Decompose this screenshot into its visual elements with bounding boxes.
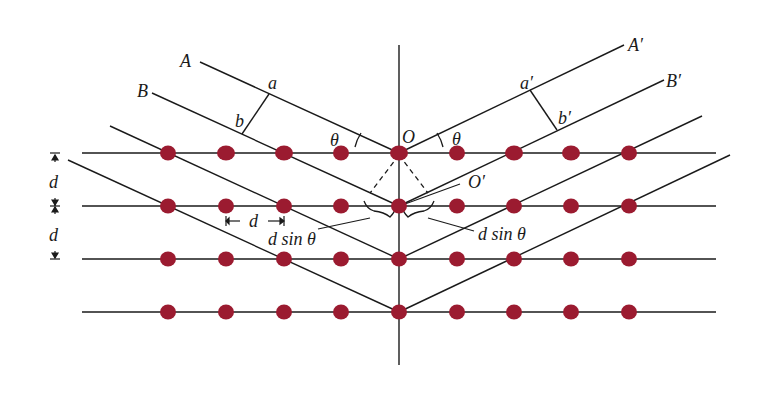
bragg-diagram: A B A′ B′ a b a′ b′ O O′ θ θ d d d d sin… bbox=[0, 0, 769, 397]
label-theta-right: θ bbox=[452, 129, 461, 149]
label-d-vertical-2: d bbox=[49, 225, 59, 245]
atom bbox=[160, 146, 176, 161]
atom bbox=[390, 146, 408, 161]
atom bbox=[276, 305, 292, 320]
atom bbox=[391, 305, 407, 320]
atom bbox=[506, 252, 522, 267]
ray-B-incident bbox=[152, 93, 399, 206]
atom bbox=[506, 199, 522, 214]
atom bbox=[218, 305, 234, 320]
ray-4-reflected bbox=[399, 155, 730, 312]
label-B: B bbox=[137, 81, 148, 101]
label-dsin-left: d sin θ bbox=[268, 229, 316, 249]
label-a-prime: a′ bbox=[520, 73, 534, 93]
atom bbox=[160, 305, 176, 320]
label-theta-left: θ bbox=[330, 130, 339, 150]
label-b: b bbox=[235, 111, 244, 131]
ray-3-reflected bbox=[399, 116, 702, 259]
leader-dsin-left bbox=[318, 218, 370, 229]
label-a: a bbox=[268, 73, 277, 93]
label-d-vertical-1: d bbox=[49, 172, 59, 192]
atom bbox=[391, 252, 407, 267]
wavefront-ab-prime bbox=[530, 90, 557, 130]
incident-rays bbox=[68, 62, 399, 312]
label-dsin-right: d sin θ bbox=[478, 224, 526, 244]
atom bbox=[391, 199, 407, 214]
atom bbox=[563, 199, 579, 214]
atom bbox=[333, 252, 349, 267]
atom bbox=[505, 146, 523, 161]
atom bbox=[218, 199, 234, 214]
ray-A-incident bbox=[200, 62, 399, 153]
atom bbox=[506, 305, 522, 320]
wavefront-ab bbox=[242, 94, 269, 134]
angle-arc-left bbox=[355, 133, 361, 147]
dash-right bbox=[399, 155, 428, 193]
atom bbox=[160, 252, 176, 267]
atom bbox=[621, 146, 637, 161]
atom bbox=[563, 305, 579, 320]
leader-dsin-right bbox=[428, 218, 474, 231]
ray-A-reflected bbox=[399, 45, 624, 153]
label-d-horizontal: d bbox=[249, 211, 259, 231]
dash-left bbox=[370, 155, 399, 193]
atom bbox=[621, 305, 637, 320]
atom bbox=[217, 146, 235, 161]
atom bbox=[621, 252, 637, 267]
atom bbox=[160, 199, 176, 214]
atom bbox=[276, 252, 292, 267]
atom bbox=[275, 146, 293, 161]
ray-B-reflected bbox=[399, 80, 664, 206]
label-O-prime: O′ bbox=[468, 172, 486, 192]
atom bbox=[276, 199, 292, 214]
atom bbox=[333, 305, 349, 320]
atom bbox=[449, 252, 465, 267]
atom bbox=[333, 199, 349, 214]
atom bbox=[218, 252, 234, 267]
angle-arc-right bbox=[437, 133, 443, 147]
atom bbox=[563, 252, 579, 267]
brace-left bbox=[364, 201, 396, 217]
atom bbox=[449, 305, 465, 320]
label-A: A bbox=[179, 51, 192, 71]
atom bbox=[621, 199, 637, 214]
label-O: O bbox=[402, 127, 415, 147]
label-b-prime: b′ bbox=[558, 108, 572, 128]
atom bbox=[449, 199, 465, 214]
atom bbox=[562, 146, 580, 161]
label-B-prime: B′ bbox=[666, 71, 682, 91]
label-A-prime: A′ bbox=[627, 35, 644, 55]
